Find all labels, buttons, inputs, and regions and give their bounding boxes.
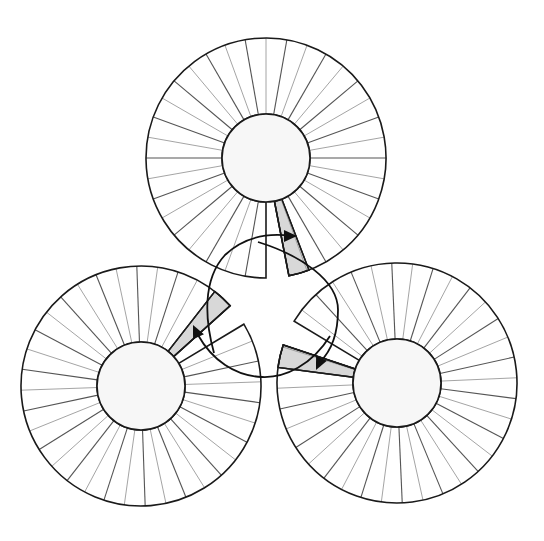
wheel-bottom-left [21, 266, 261, 506]
rotary-cycle-diagram [0, 0, 544, 541]
wheel-hub [353, 339, 441, 427]
wheel-top [146, 38, 386, 278]
wheel-hub [222, 114, 310, 202]
wheel-bottom-right [277, 263, 517, 503]
wheel-hub [97, 342, 185, 430]
